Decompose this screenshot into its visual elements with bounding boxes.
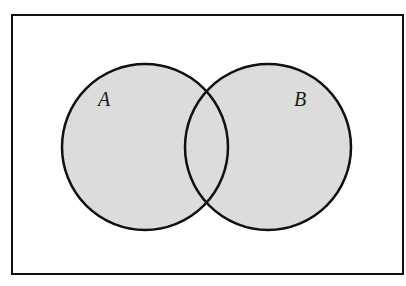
set-a-label: A: [96, 88, 111, 110]
venn-diagram: A B: [0, 0, 406, 286]
set-b-label: B: [294, 88, 306, 110]
